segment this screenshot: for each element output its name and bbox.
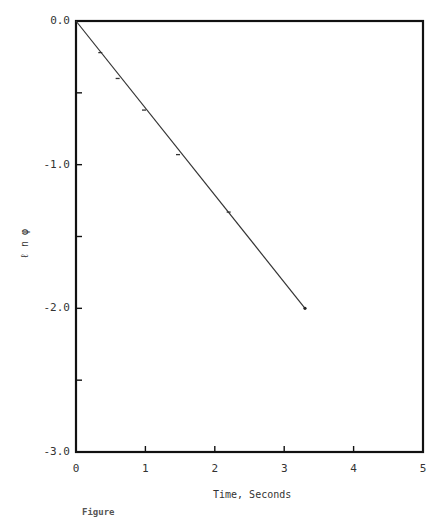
- y-tick-label: -3.0: [30, 446, 70, 457]
- x-tick-label: 1: [135, 463, 155, 474]
- x-axis-title: Time, Seconds: [213, 489, 291, 500]
- y-axis-title: ℓ n φ: [19, 229, 31, 259]
- figure-caption: Figure: [82, 507, 115, 517]
- x-tick-label: 0: [66, 463, 86, 474]
- y-tick-label: -1.0: [30, 159, 70, 170]
- x-tick-label: 3: [274, 463, 294, 474]
- x-tick-label: 4: [344, 463, 364, 474]
- axis-ticks: [76, 93, 354, 452]
- data-series: [76, 21, 307, 310]
- x-tick-label: 2: [205, 463, 225, 474]
- line-end-point: [303, 307, 306, 310]
- fit-line: [76, 21, 305, 308]
- y-tick-label: 0.0: [30, 15, 70, 26]
- x-tick-label: 5: [413, 463, 433, 474]
- y-tick-label: -2.0: [30, 302, 70, 313]
